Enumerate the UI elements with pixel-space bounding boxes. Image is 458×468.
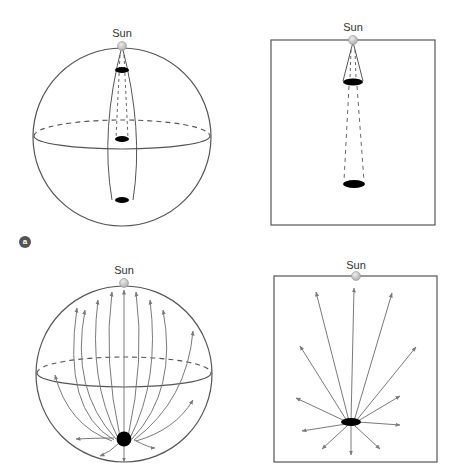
top-left-sphere — [33, 42, 211, 227]
bottom-right-projection — [274, 272, 437, 463]
top-right-projection — [271, 36, 435, 226]
shadow-disc — [115, 136, 129, 142]
sunspot — [117, 432, 132, 447]
sun-label-bottom-right: Sun — [346, 259, 366, 271]
bottom-left-sphere — [36, 279, 212, 463]
panel-a-badge: a — [19, 236, 31, 248]
sun-icon — [352, 272, 361, 281]
sun-label-top-left: Sun — [112, 27, 132, 39]
sun-label-bottom-left: Sun — [114, 264, 134, 276]
sun-icon — [349, 36, 358, 45]
sun-icon — [118, 42, 127, 51]
shadow-disc — [115, 67, 129, 73]
diagram-canvas — [0, 0, 458, 468]
sun-icon — [120, 279, 129, 288]
shadow-disc — [343, 180, 365, 188]
shadow-ellipse — [341, 418, 361, 426]
shadow-disc — [115, 197, 129, 203]
diagram-stage: Sun Sun Sun Sun a — [0, 0, 458, 468]
shadow-disc — [343, 79, 363, 86]
sun-label-top-right: Sun — [343, 21, 363, 33]
